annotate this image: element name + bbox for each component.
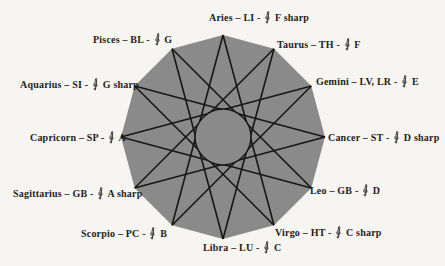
sign-name: Aries xyxy=(209,12,233,23)
note-name: D sharp xyxy=(404,132,440,143)
treble-clef-icon xyxy=(149,226,156,240)
treble-clef-icon xyxy=(92,77,99,91)
treble-clef-icon xyxy=(108,130,115,144)
organ-code: TH xyxy=(319,39,334,50)
sign-name: Virgo xyxy=(275,227,300,238)
organ-code: PC xyxy=(126,228,140,239)
zodiac-label-cancer: Cancer – ST - D sharp xyxy=(328,130,439,144)
organ-code: SP xyxy=(87,132,99,143)
zodiac-label-aries: Aries – LI - F sharp xyxy=(209,10,309,24)
zodiac-label-scorpio: Scorpio – PC - B xyxy=(81,226,167,240)
zodiac-label-gemini: Gemini – LV, LR - E xyxy=(316,74,419,88)
treble-clef-icon xyxy=(344,37,351,51)
zodiac-label-libra: Libra – LU - C xyxy=(203,240,281,254)
treble-clef-icon xyxy=(362,183,369,197)
note-name: B xyxy=(160,228,167,239)
note-name: G sharp xyxy=(103,79,139,90)
organ-code: HT xyxy=(311,227,326,238)
organ-code: BL xyxy=(130,34,143,45)
organ-code: LV, LR xyxy=(359,76,391,87)
organ-code: LI xyxy=(243,12,254,23)
sign-name: Aquarius xyxy=(20,79,62,90)
organ-code: LU xyxy=(239,242,253,253)
note-name: D xyxy=(373,185,380,196)
note-name: C xyxy=(274,242,281,253)
treble-clef-icon xyxy=(335,225,342,239)
treble-clef-icon xyxy=(263,240,270,254)
zodiac-label-sagittarius: Sagittarius – GB - A sharp xyxy=(13,186,142,200)
center-circle xyxy=(195,109,251,165)
treble-clef-icon xyxy=(401,74,408,88)
treble-clef-icon xyxy=(97,186,104,200)
zodiac-label-capricorn: Capricorn – SP - A xyxy=(30,130,126,144)
treble-clef-icon xyxy=(264,10,271,24)
organ-code: SI xyxy=(72,79,82,90)
note-name: E xyxy=(412,76,419,87)
note-name: G xyxy=(164,34,172,45)
organ-code: GB xyxy=(337,185,352,196)
zodiac-label-pisces: Pisces – BL - G xyxy=(93,32,172,46)
zodiac-label-leo: Leo – GB - D xyxy=(310,183,380,197)
zodiac-label-aquarius: Aquarius – SI - G sharp xyxy=(20,77,139,91)
sign-name: Sagittarius xyxy=(13,188,62,199)
sign-name: Libra xyxy=(203,242,228,253)
treble-clef-icon xyxy=(154,32,161,46)
sign-name: Leo xyxy=(310,185,327,196)
zodiac-music-diagram: Aries – LI - F sharpTaurus – TH - FGemin… xyxy=(0,0,445,266)
zodiac-label-taurus: Taurus – TH - F xyxy=(277,37,361,51)
note-name: F xyxy=(354,39,360,50)
sign-name: Scorpio xyxy=(81,228,115,239)
organ-code: GB xyxy=(72,188,87,199)
sign-name: Cancer xyxy=(328,132,360,143)
zodiac-label-virgo: Virgo – HT - C sharp xyxy=(275,225,382,239)
note-name: A xyxy=(118,132,125,143)
organ-code: ST xyxy=(371,132,383,143)
sign-name: Gemini xyxy=(316,76,349,87)
note-name: A sharp xyxy=(107,188,142,199)
sign-name: Taurus xyxy=(277,39,308,50)
note-name: C sharp xyxy=(346,227,382,238)
sign-name: Pisces xyxy=(93,34,120,45)
treble-clef-icon xyxy=(393,130,400,144)
sign-name: Capricorn xyxy=(30,132,76,143)
note-name: F sharp xyxy=(275,12,309,23)
